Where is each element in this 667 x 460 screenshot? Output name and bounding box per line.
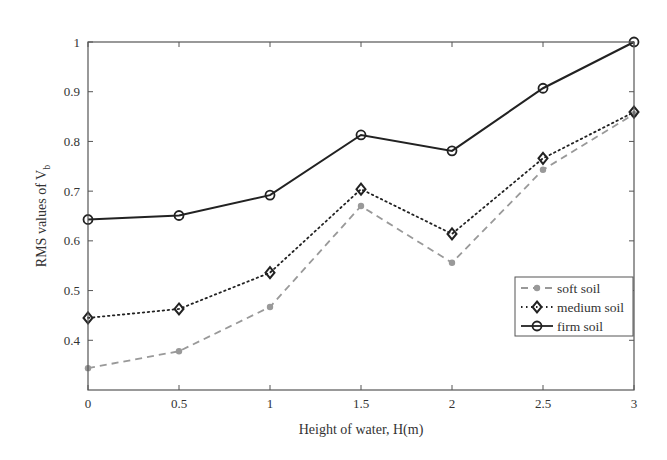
data-point-soft-soil: [176, 348, 182, 354]
data-point-soft-soil: [267, 304, 273, 310]
y-tick-label: 0.7: [64, 184, 81, 199]
x-axis: 00.511.522.53: [85, 42, 638, 411]
x-axis-title: Height of water, H(m): [299, 422, 424, 438]
legend-label-medium-soil: medium soil: [557, 300, 624, 315]
chart: 00.511.522.53 0.40.50.60.70.80.91 Height…: [0, 0, 667, 460]
legend-marker-soft-soil: [534, 285, 540, 291]
y-tick-label: 0.4: [64, 333, 81, 348]
x-tick-label: 1: [267, 396, 274, 411]
data-point-medium-soil: [539, 153, 548, 164]
data-point-medium-soil: [357, 184, 366, 195]
data-point-soft-soil: [449, 260, 455, 266]
y-tick-label: 0.8: [64, 134, 80, 149]
y-axis-title: RMS values of Vb: [34, 165, 52, 267]
data-point-soft-soil: [540, 167, 546, 173]
data-point-soft-soil: [358, 203, 364, 209]
legend-label-soft-soil: soft soil: [557, 281, 600, 296]
y-axis-title-main: RMS values of V: [34, 170, 49, 267]
x-tick-label: 2.5: [535, 396, 551, 411]
legend: soft soilmedium soilfirm soil: [515, 277, 633, 336]
x-tick-label: 1.5: [353, 396, 369, 411]
y-tick-label: 0.9: [64, 84, 80, 99]
x-tick-label: 0: [85, 396, 92, 411]
x-tick-label: 3: [631, 396, 638, 411]
y-tick-label: 0.6: [64, 233, 81, 248]
y-tick-label: 1: [74, 35, 81, 50]
x-tick-label: 2: [449, 396, 456, 411]
x-tick-label: 0.5: [171, 396, 187, 411]
legend-entry-medium-soil: medium soil: [521, 300, 624, 315]
legend-label-firm-soil: firm soil: [557, 319, 603, 334]
y-tick-label: 0.5: [64, 283, 80, 298]
y-axis-title-subscript: b: [41, 165, 52, 170]
